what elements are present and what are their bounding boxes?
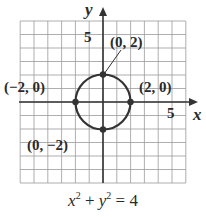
point-label-right: (2, 0) xyxy=(139,80,172,95)
y-axis-label: y xyxy=(85,1,93,18)
y-tick-label: 5 xyxy=(84,30,92,45)
point-right xyxy=(127,99,133,105)
y-axis-arrow-icon xyxy=(99,7,107,16)
eq-rhs: = 4 xyxy=(111,191,138,210)
point-label-left: (−2, 0) xyxy=(4,80,45,95)
point-label-bottom: (0, −2) xyxy=(27,138,68,153)
point-label-top: (0, 2) xyxy=(110,35,143,50)
leader-line xyxy=(104,50,121,74)
eq-plus: + xyxy=(81,191,99,210)
point-left xyxy=(72,99,78,105)
point-bottom xyxy=(100,126,106,132)
x-axis-label: x xyxy=(193,106,202,123)
coordinate-plane xyxy=(0,0,206,217)
eq-x: x xyxy=(68,191,76,210)
x-tick-label: 5 xyxy=(167,106,175,121)
equation-caption: x2 + y2 = 4 xyxy=(0,190,206,211)
point-top xyxy=(100,71,106,77)
